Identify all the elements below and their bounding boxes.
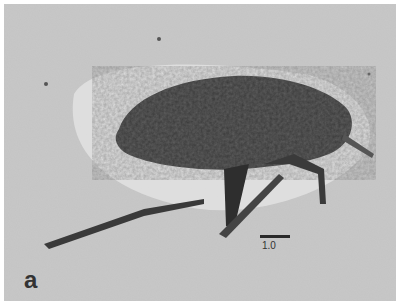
fossil-photo: 1.0 a [4, 4, 396, 301]
scale-bar-label: 1.0 [262, 240, 276, 251]
fossil-illustration [4, 4, 396, 301]
scale-bar [260, 235, 290, 238]
panel-label: a [24, 266, 37, 294]
figure: 1.0 a [0, 0, 401, 305]
